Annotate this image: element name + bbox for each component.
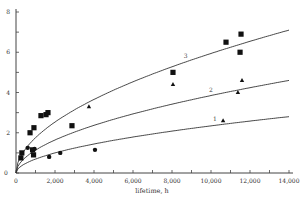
point-triangle	[171, 82, 175, 86]
y-tick-label: 4	[6, 89, 10, 96]
point-square	[170, 70, 175, 75]
point-square	[38, 113, 43, 118]
y-tick-label: 2	[6, 129, 10, 136]
point-square	[27, 130, 32, 135]
point-square	[19, 150, 24, 155]
point-square	[69, 123, 74, 128]
origin-label: 0	[4, 169, 8, 176]
point-square	[18, 155, 23, 160]
point-circle	[32, 147, 36, 151]
curve-label-1: 1	[213, 115, 217, 122]
curve-2	[16, 80, 289, 173]
x-tick-label: 12,000	[240, 177, 261, 184]
curve-label-3: 3	[184, 52, 188, 59]
curve-label-2: 2	[209, 86, 213, 93]
point-square	[238, 32, 243, 37]
fit-curves: 123	[16, 30, 289, 173]
x-tick-label: 14,000	[279, 177, 300, 184]
point-square	[237, 50, 242, 55]
point-triangle	[221, 118, 225, 122]
point-circle	[93, 148, 97, 152]
chart: 02,0004,0006,0008,00010,00012,00014,0002…	[0, 0, 305, 203]
x-tick-label: 6,000	[124, 177, 141, 184]
x-axis-label: lifetime, h	[135, 187, 168, 195]
y-tick-label: 6	[6, 48, 10, 55]
point-square	[45, 110, 50, 115]
x-tick-label: 8,000	[163, 177, 180, 184]
curve-1	[16, 117, 289, 173]
point-circle	[47, 155, 51, 159]
point-triangle	[87, 104, 91, 108]
x-tick-label: 2,000	[46, 177, 63, 184]
point-square	[31, 125, 36, 130]
curve-3	[16, 30, 289, 173]
point-square	[31, 152, 36, 157]
point-triangle	[240, 78, 244, 82]
x-tick-label: 10,000	[201, 177, 222, 184]
point-square	[223, 40, 228, 45]
point-circle	[26, 146, 30, 150]
y-tick-label: 8	[6, 8, 10, 15]
x-tick-label: 4,000	[85, 177, 102, 184]
point-circle	[58, 151, 62, 155]
x-tick-label: 0	[14, 177, 18, 184]
